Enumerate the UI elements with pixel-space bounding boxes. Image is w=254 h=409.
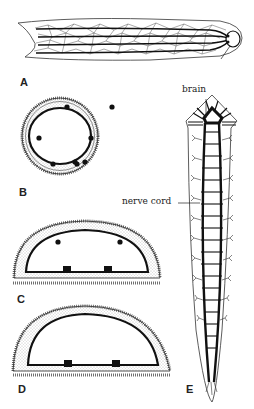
panel-c-cross-section: [13, 221, 161, 283]
annotation-brain: brain: [182, 84, 206, 94]
panel-d-cross-section: [13, 306, 170, 375]
panel-b-cross-section: [22, 98, 115, 174]
annotation-nerve-cord: nerve cord: [122, 196, 171, 206]
panel-label-e: E: [186, 383, 193, 395]
panel-label-d: D: [18, 383, 26, 395]
panel-e-ladder-system: [186, 95, 237, 402]
panel-label-a: A: [20, 76, 28, 88]
panel-a-worm: [18, 19, 242, 61]
panel-label-b: B: [19, 186, 27, 198]
panel-label-c: C: [17, 293, 25, 305]
